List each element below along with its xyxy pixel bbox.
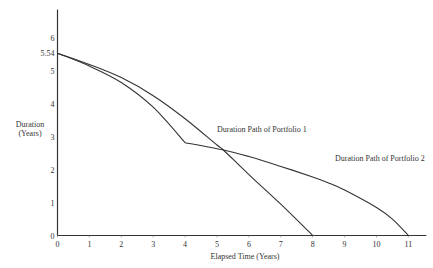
y-tick-label: 4 [51,100,55,109]
x-tick-label: 1 [87,240,91,249]
y-tick-label: 0 [51,232,55,241]
x-tick-label: 0 [56,240,60,249]
series-line-portfolio-2 [58,53,409,235]
series-line-portfolio-1 [58,53,313,235]
x-tick-label: 10 [373,240,381,249]
x-tick-label: 11 [405,240,413,249]
x-tick-labels: 01234567891011 [56,236,413,249]
y-tick-label: 5.54 [41,49,55,58]
y-tick-label: 1 [51,199,55,208]
x-tick-label: 3 [151,240,155,249]
y-axis-label-line1: Duration [16,120,44,129]
x-tick-label: 8 [311,240,315,249]
duration-chart: 01234567891011 0123455.546 Elapsed Time … [0,0,433,268]
series-lines [58,53,409,235]
x-tick-label: 4 [183,240,187,249]
x-tick-label: 9 [343,240,347,249]
x-tick-label: 2 [119,240,123,249]
x-tick-label: 7 [279,240,283,249]
axes [58,10,427,236]
x-tick-label: 6 [247,240,251,249]
y-tick-label: 6 [51,34,55,43]
x-tick-label: 5 [215,240,219,249]
x-axis-label: Elapsed Time (Years) [211,252,280,261]
y-tick-label: 3 [51,133,55,142]
y-axis-label-line2: (Years) [18,129,42,138]
y-tick-label: 2 [51,166,55,175]
y-tick-label: 5 [51,67,55,76]
y-tick-labels: 0123455.546 [41,34,55,240]
annotation-portfolio-1: Duration Path of Portfolio 1 [217,125,307,134]
annotation-portfolio-2: Duration Path of Portfolio 2 [335,154,425,163]
